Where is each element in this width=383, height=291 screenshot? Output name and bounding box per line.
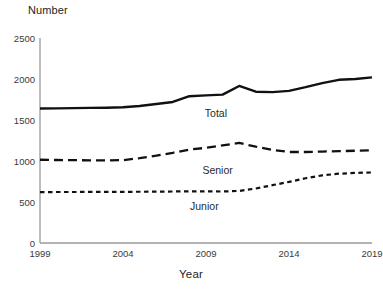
x-axis-tick-label: 2014 [278, 248, 299, 259]
series-line-senior [40, 143, 372, 160]
x-axis-tick-label: 2004 [112, 248, 133, 259]
x-axis-tick-label: 2009 [195, 248, 216, 259]
series-label-senior: Senior [202, 164, 232, 176]
series-line-total [40, 77, 372, 108]
series-label-junior: Junior [190, 200, 219, 212]
series-label-total: Total [205, 107, 227, 119]
x-axis-tick-label: 1999 [29, 248, 50, 259]
x-axis-title: Year [0, 268, 382, 280]
x-axis-tick-label: 2019 [361, 248, 382, 259]
axes-lines [40, 38, 372, 243]
